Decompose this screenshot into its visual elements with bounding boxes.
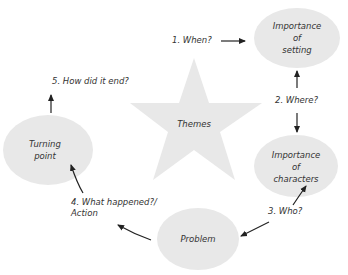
node-setting-line1: Importance of (272, 20, 323, 44)
node-problem-line1: Problem (180, 233, 215, 245)
edge-label-action-line2: Action (71, 208, 157, 219)
edge-label-when: 1. When? (172, 35, 212, 46)
edge-label-action: 4. What happened?/ Action (71, 197, 157, 219)
node-turning-line1: Turning (29, 138, 61, 150)
node-characters-line2: characters (270, 173, 322, 185)
edge-label-who: 3. Who? (268, 206, 302, 217)
node-setting: Importance of setting (272, 20, 323, 56)
edge-label-where: 2. Where? (275, 95, 318, 106)
node-characters-line1: Importance of (270, 149, 322, 173)
arrow-who-left (241, 222, 269, 236)
node-problem: Problem (180, 233, 215, 245)
node-setting-line2: setting (272, 44, 323, 56)
edge-label-action-line1: 4. What happened?/ (71, 197, 157, 208)
node-turning: Turning point (29, 138, 61, 162)
node-turning-line2: point (29, 150, 61, 162)
themes-label: Themes (177, 118, 211, 130)
arrow-action (118, 225, 151, 240)
node-characters: Importance of characters (270, 149, 322, 185)
edge-label-end: 5. How did it end? (52, 76, 129, 87)
